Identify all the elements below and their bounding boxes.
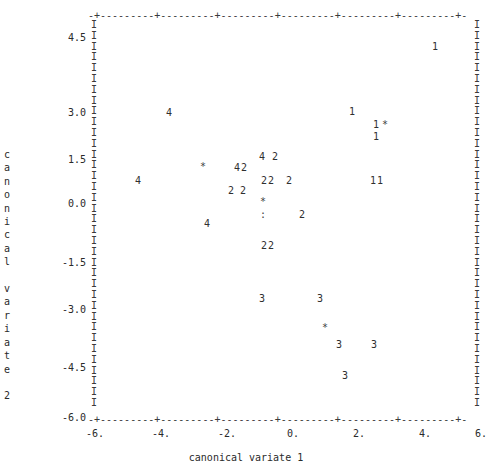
character-scatter-plot: -+---------+---------+---------+--------… (0, 0, 492, 471)
data-point-label: 1 (349, 107, 355, 117)
plot-symbol-glyph: * (260, 197, 266, 207)
data-point-label: 2 (272, 152, 278, 162)
x-tick-label: -6. (75, 428, 115, 439)
data-point-label: 3 (342, 371, 348, 381)
data-point-label: 2 (261, 176, 267, 186)
y-tick-label: -6.0 (40, 412, 86, 423)
data-point-label: 2 (228, 186, 234, 196)
data-point-label: 3 (371, 340, 377, 350)
plot-symbol-glyph: * (322, 323, 328, 333)
data-point-label: 4 (204, 219, 210, 229)
x-tick-label: 4. (405, 428, 445, 439)
x-tick-label: -4. (141, 428, 181, 439)
x-tick-label: 0. (273, 428, 313, 439)
data-point-label: 2 (286, 176, 292, 186)
data-point-label: 2 (268, 176, 274, 186)
data-point-label: 2 (299, 210, 305, 220)
data-point-label: 3 (259, 294, 265, 304)
data-point-label: 1 (370, 176, 376, 186)
y-tick-label: 3.0 (40, 107, 86, 118)
y-tick-label: -1.5 (40, 257, 86, 268)
data-point-label: 1 (432, 42, 438, 52)
data-point-label: 1 (373, 132, 379, 142)
x-axis-title: canonical variate 1 (0, 452, 492, 464)
plot-bottom-border: -+---------+---------+---------+--------… (88, 414, 467, 425)
data-point-label: 3 (336, 340, 342, 350)
data-point-label: 1 (373, 120, 379, 130)
y-tick-label: 0.0 (40, 198, 86, 209)
y-axis-title: c a n o n i c a l v a r i a t e 2 (4, 148, 10, 403)
y-tick-label: -3.0 (40, 304, 86, 315)
x-tick-label: 6. (461, 428, 492, 439)
data-point-label: 2 (261, 241, 267, 251)
y-tick-label: -4.5 (40, 362, 86, 373)
data-point-label: 4 (135, 176, 141, 186)
plot-symbol-glyph: * (382, 120, 388, 130)
plot-left-axis-rail: I I I I I I I I I I I I I I I I I I I I … (91, 20, 97, 409)
plot-symbol-glyph: : (260, 210, 266, 220)
y-tick-label: 4.5 (40, 32, 86, 43)
data-point-label: 2 (268, 241, 274, 251)
plot-symbol-glyph: * (200, 162, 206, 172)
data-point-label: 4 (234, 163, 240, 173)
x-tick-label: -2. (207, 428, 247, 439)
data-point-label: 3 (317, 294, 323, 304)
data-point-label: 4 (259, 152, 265, 162)
plot-right-axis-rail: I I I I I I I I I I I I I I I I I I I I … (474, 20, 480, 409)
data-point-label: 1 (377, 176, 383, 186)
y-tick-label: 1.5 (40, 154, 86, 165)
data-point-label: 2 (240, 186, 246, 196)
data-point-label: 4 (166, 108, 172, 118)
data-point-label: 2 (241, 163, 247, 173)
x-tick-label: 2. (339, 428, 379, 439)
plot-top-border: -+---------+---------+---------+--------… (88, 10, 467, 21)
